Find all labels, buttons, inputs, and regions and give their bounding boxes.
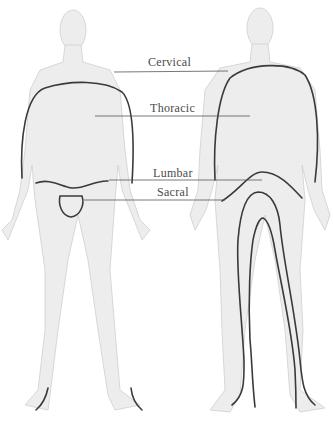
front-body-figure <box>2 10 150 410</box>
lumbar-label: Lumbar <box>153 166 193 181</box>
cervical-leader <box>114 71 228 72</box>
thoracic-label: Thoracic <box>150 101 195 116</box>
back-body-figure <box>190 8 330 412</box>
cervical-label: Cervical <box>148 55 191 70</box>
sacral-label: Sacral <box>157 185 189 200</box>
